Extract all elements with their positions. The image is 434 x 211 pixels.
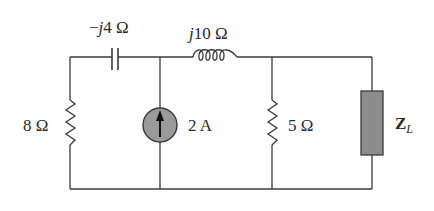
capacitor-label: −j4 Ω: [89, 19, 129, 36]
resistor-5-label: 5 Ω: [288, 117, 313, 134]
current-source-label: 2 A: [188, 117, 212, 134]
load-impedance-box: [361, 91, 383, 155]
resistor-8-zigzag: [66, 100, 75, 145]
inductor-label: j10 Ω: [189, 25, 228, 42]
load-impedance-label: ZL: [395, 115, 413, 135]
resistor-5-zigzag: [268, 100, 277, 145]
inductor-coil: [193, 50, 237, 61]
resistor-8-label: 8 Ω: [23, 117, 48, 134]
